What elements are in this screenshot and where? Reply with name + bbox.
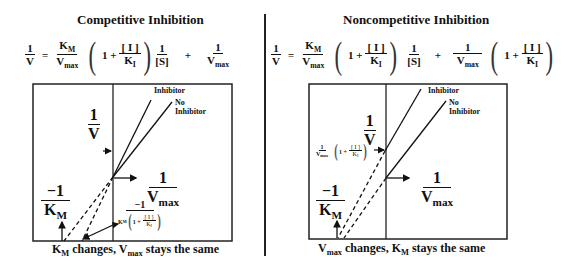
competitive-xint-label: −1KM — [41, 182, 70, 221]
noncompetitive-inhibited-yint-label: 1Vmax (1 + [ I ]KI ) — [314, 141, 368, 162]
noncompetitive-equation: 1V = KMVmax ( 1 + [ I ]KI ) 1[S] + 1Vmax… — [270, 36, 555, 74]
competitive-no-inhibitor-label: NoInhibitor — [175, 98, 206, 116]
noncompetitive-inhibitor-line — [385, 89, 421, 151]
competitive-inhibitor-line — [113, 100, 151, 177]
noncompetitive-no-inhibitor-label: NoInhibitor — [449, 98, 480, 116]
competitive-no-inhibitor-line — [113, 102, 172, 177]
noncompetitive-inhibitor-label: Inhibitor — [428, 86, 459, 95]
noncompetitive-caption: Vmax changes, KM stays the same — [318, 241, 485, 257]
competitive-caption: KM changes, Vmax stays the same — [52, 242, 219, 258]
competitive-inhibited-xint-label: −1 KM (1 + [ I ]KI ) — [118, 199, 162, 232]
competitive-inhibitor-label: Inhibitor — [154, 86, 185, 95]
competitive-y-axis-label: 1V — [86, 106, 102, 143]
noncompetitive-no-inhibitor-line — [386, 101, 446, 178]
noncompetitive-title: Noncompetitive Inhibition — [343, 12, 489, 28]
noncompetitive-xint-label: −1KM — [316, 182, 345, 221]
noncompetitive-yint-label: 1Vmax — [419, 169, 455, 208]
